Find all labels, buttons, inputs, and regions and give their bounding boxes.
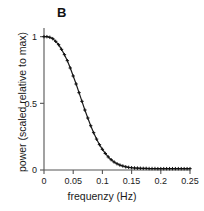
y-tick-label: 1 (32, 32, 37, 42)
x-tick-label: 0.2 (155, 176, 168, 186)
figure-panel: B power (scaled relative to max) frequen… (0, 0, 204, 211)
y-tick-label: 0.5 (24, 99, 37, 109)
x-tick-label: 0.05 (64, 176, 82, 186)
data-line (44, 37, 190, 169)
y-tick-label: 0 (32, 165, 37, 175)
x-tick-label: 0.1 (96, 176, 109, 186)
x-tick-label: 0.25 (181, 176, 199, 186)
x-tick-label: 0.15 (123, 176, 141, 186)
data-markers (42, 35, 191, 170)
power-spectrum-plot: 00.050.10.150.20.2500.51 (0, 0, 204, 211)
x-tick-label: 0 (41, 176, 46, 186)
